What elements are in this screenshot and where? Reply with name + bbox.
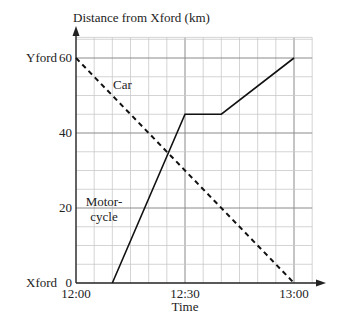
grid: [76, 37, 312, 283]
car-label: Car: [113, 77, 132, 92]
x-tick-1230: 12:30: [170, 286, 200, 301]
y-axis-title: Distance from Xford (km): [73, 10, 210, 25]
x-tick-1300: 13:00: [279, 286, 309, 301]
x-axis-arrow-icon: [316, 280, 326, 287]
y-tick-60: 60: [59, 50, 72, 65]
y-tick-0: 0: [66, 275, 73, 290]
motorcycle-label-line2: cycle: [90, 209, 118, 224]
distance-time-chart: Distance from Xford (km) Time 12:00 12:3…: [0, 0, 340, 324]
y-axis-arrow-icon: [73, 26, 80, 36]
place-label-yford: Yford: [26, 50, 58, 65]
motorcycle-label-line1: Motor-: [86, 194, 123, 209]
place-label-xford: Xford: [26, 275, 58, 290]
y-tick-20: 20: [59, 200, 72, 215]
x-axis-title: Time: [172, 299, 199, 314]
y-tick-40: 40: [59, 125, 72, 140]
